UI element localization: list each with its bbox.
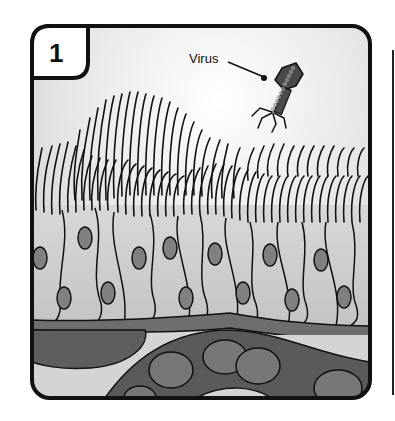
panel-number: 1	[49, 38, 63, 68]
virus-label: Virus	[189, 51, 219, 66]
airway-epithelium-diagram: 1 Virus	[0, 0, 395, 421]
virus-pointer-dot	[261, 75, 267, 81]
